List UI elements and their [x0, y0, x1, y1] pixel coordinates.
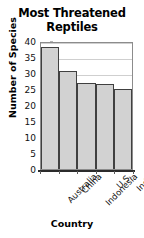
bar	[41, 47, 59, 169]
x-tick-mark	[114, 171, 115, 174]
y-tick-label: 35	[25, 54, 36, 63]
x-tick-mark	[96, 171, 97, 174]
x-tick-mark	[133, 171, 134, 174]
x-tick-mark	[77, 171, 78, 174]
y-tick-label: 25	[25, 86, 36, 95]
y-tick-label: 30	[25, 70, 36, 79]
bar-series	[41, 43, 132, 169]
x-axis-tick-labels: AustraliaChinaIndonesiaU.S.India	[40, 172, 133, 212]
y-tick-label: 10	[25, 134, 36, 143]
bar	[59, 71, 77, 169]
bar	[77, 83, 95, 169]
bar	[114, 89, 132, 169]
chart-title-line-2: Reptiles	[8, 20, 136, 34]
bar-chart-figure: Most Threatened Reptiles Number of Speci…	[0, 0, 144, 238]
y-axis-tick-labels: 4035302520151050	[14, 42, 36, 170]
bar	[96, 84, 114, 169]
y-tick-label: 5	[30, 150, 36, 159]
x-tick-mark	[59, 171, 60, 174]
x-tick-label: China	[80, 172, 104, 196]
plot-area	[40, 42, 133, 170]
y-tick-label: 15	[25, 118, 36, 127]
y-tick-label: 0	[30, 166, 36, 175]
chart-title-line-1: Most Threatened	[8, 6, 136, 20]
chart-title: Most Threatened Reptiles	[8, 6, 136, 34]
x-tick-mark	[40, 171, 41, 174]
y-tick-label: 40	[25, 38, 36, 47]
x-axis-title: Country	[8, 218, 136, 229]
y-tick-label: 20	[25, 102, 36, 111]
